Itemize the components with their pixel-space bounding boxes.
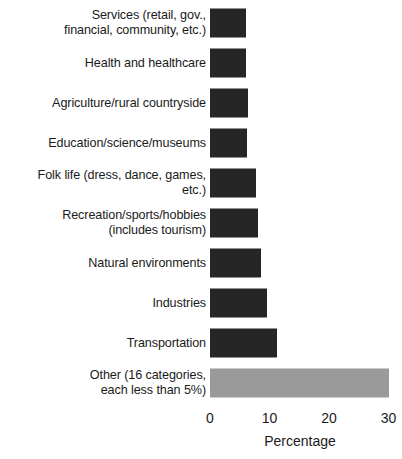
bar	[210, 49, 246, 78]
category-label: Health and healthcare	[6, 43, 206, 83]
category-label: Transportation	[6, 323, 206, 363]
x-axis-tick-label: 30	[381, 410, 397, 427]
chart-row: Natural environments	[0, 243, 402, 283]
category-label: Folk life (dress, dance, games, etc.)	[6, 163, 206, 203]
bar-chart: Services (retail, gov., financial, commu…	[0, 0, 402, 459]
x-axis: 0102030 Percentage	[0, 404, 402, 459]
bar	[210, 209, 258, 238]
bar	[210, 249, 261, 278]
bar	[210, 129, 247, 158]
chart-row: Education/science/museums	[0, 123, 402, 163]
bar	[210, 329, 277, 358]
bar	[210, 369, 389, 398]
x-axis-tick-label: 0	[206, 410, 214, 427]
bar	[210, 169, 256, 198]
category-label: Agriculture/rural countryside	[6, 83, 206, 123]
chart-row: Other (16 categories, each less than 5%)	[0, 363, 402, 403]
category-label: Industries	[6, 283, 206, 323]
category-label: Education/science/museums	[6, 123, 206, 163]
chart-row: Recreation/sports/hobbies (includes tour…	[0, 203, 402, 243]
category-label: Other (16 categories, each less than 5%)	[6, 363, 206, 403]
x-axis-tick-label: 10	[262, 410, 278, 427]
chart-row: Services (retail, gov., financial, commu…	[0, 3, 402, 43]
bar	[210, 9, 246, 38]
bar	[210, 289, 267, 318]
x-axis-title: Percentage	[210, 432, 390, 450]
bar	[210, 89, 248, 118]
chart-row: Folk life (dress, dance, games, etc.)	[0, 163, 402, 203]
category-label: Recreation/sports/hobbies (includes tour…	[6, 203, 206, 243]
chart-row: Health and healthcare	[0, 43, 402, 83]
chart-row: Transportation	[0, 323, 402, 363]
chart-row: Agriculture/rural countryside	[0, 83, 402, 123]
x-axis-tick-label: 20	[321, 410, 337, 427]
category-label: Services (retail, gov., financial, commu…	[6, 3, 206, 43]
category-label: Natural environments	[6, 243, 206, 283]
chart-row: Industries	[0, 283, 402, 323]
